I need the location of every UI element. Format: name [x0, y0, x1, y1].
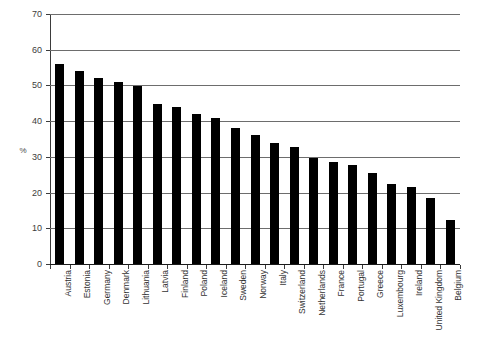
- x-axis-tick-label: Greece: [376, 270, 385, 298]
- x-axis-tick-mark: [343, 265, 344, 269]
- y-axis-tick-label: 10: [16, 224, 42, 233]
- x-axis-tick-label: Poland: [200, 270, 209, 296]
- x-axis-tick-label: Ireland: [415, 270, 424, 296]
- x-axis-tick-label: Denmark: [122, 270, 131, 304]
- bar: [251, 135, 260, 264]
- y-axis-tick-label: 30: [16, 153, 42, 162]
- bar: [446, 220, 455, 264]
- bar: [309, 158, 318, 264]
- y-axis-tick-label: 40: [16, 117, 42, 126]
- x-axis-tick-label: Estonia: [83, 270, 92, 298]
- y-axis-tick-mark: [46, 157, 50, 158]
- x-axis-tick-label: Belgium: [454, 270, 463, 301]
- bar: [407, 187, 416, 264]
- bar: [426, 198, 435, 264]
- x-axis-tick-mark: [167, 265, 168, 269]
- x-axis-tick-mark: [206, 265, 207, 269]
- y-axis-tick-mark: [46, 14, 50, 15]
- x-axis-tick-label: France: [337, 270, 346, 296]
- x-axis-tick-mark: [89, 265, 90, 269]
- x-axis-tick-label: Norway: [259, 270, 268, 299]
- y-axis-tick-mark: [46, 85, 50, 86]
- x-axis-tick-mark: [284, 265, 285, 269]
- x-axis-tick-mark: [128, 265, 129, 269]
- x-axis-tick-mark: [148, 265, 149, 269]
- x-axis-tick-mark: [70, 265, 71, 269]
- x-axis-tick-mark: [226, 265, 227, 269]
- bar: [368, 173, 377, 264]
- x-axis-tick-mark: [304, 265, 305, 269]
- y-axis-tick-label: 50: [16, 81, 42, 90]
- x-axis-tick-label: Latvia: [161, 270, 170, 293]
- x-axis-tick-label: Luxembourg: [396, 270, 405, 317]
- x-axis-tick-label: Austria: [64, 270, 73, 296]
- bar: [114, 82, 123, 264]
- bar: [133, 86, 142, 264]
- bar: [153, 104, 162, 264]
- y-axis-tick-mark: [46, 193, 50, 194]
- y-axis-tick-label: 0: [16, 260, 42, 269]
- x-axis-tick-mark: [401, 265, 402, 269]
- bar: [55, 64, 64, 264]
- y-axis-tick-mark: [46, 50, 50, 51]
- bar-chart-figure: % 010203040506070 AustriaEstoniaGermanyD…: [0, 0, 482, 364]
- y-axis-tick-mark: [46, 228, 50, 229]
- x-axis-tick-mark: [109, 265, 110, 269]
- bar: [192, 114, 201, 264]
- x-axis-tick-label: Italy: [279, 270, 288, 286]
- x-axis-tick-mark: [187, 265, 188, 269]
- bar: [94, 78, 103, 264]
- x-axis-tick-mark: [323, 265, 324, 269]
- y-axis-tick-label: 20: [16, 189, 42, 198]
- x-axis-tick-mark: [460, 265, 461, 269]
- bar: [211, 118, 220, 264]
- x-axis-tick-mark: [421, 265, 422, 269]
- x-axis-tick-label: Germany: [103, 270, 112, 305]
- gridline: [50, 264, 460, 265]
- x-axis-tick-label: Sweden: [239, 270, 248, 301]
- bar: [172, 107, 181, 264]
- bar: [348, 165, 357, 264]
- x-axis-tick-mark: [382, 265, 383, 269]
- x-axis-tick-mark: [245, 265, 246, 269]
- x-axis-tick-mark: [50, 265, 51, 269]
- x-axis-tick-label: Iceland: [220, 270, 229, 297]
- plot-area: [50, 14, 460, 264]
- y-axis-tick-label: 60: [16, 46, 42, 55]
- bar: [387, 184, 396, 264]
- x-axis-tick-label: Switzerland: [298, 270, 307, 314]
- y-axis-tick-label: 70: [16, 10, 42, 19]
- x-axis-tick-label: Finland: [181, 270, 190, 298]
- bar: [329, 162, 338, 265]
- bar: [231, 128, 240, 264]
- bars-group: [50, 14, 460, 264]
- x-axis-tick-mark: [440, 265, 441, 269]
- x-axis-tick-mark: [362, 265, 363, 269]
- x-axis-tick-label: Lithuania: [142, 270, 151, 305]
- bar: [270, 143, 279, 264]
- x-axis-labels-group: AustriaEstoniaGermanyDenmarkLithuaniaLat…: [50, 270, 460, 364]
- bar: [290, 147, 299, 264]
- x-axis-tick-label: Portugal: [357, 270, 366, 302]
- bar: [75, 71, 84, 264]
- x-axis-tick-label: Netherlands: [318, 270, 327, 316]
- y-axis-tick-mark: [46, 121, 50, 122]
- x-axis-tick-mark: [265, 265, 266, 269]
- x-axis-tick-label: United Kingdom: [435, 270, 444, 330]
